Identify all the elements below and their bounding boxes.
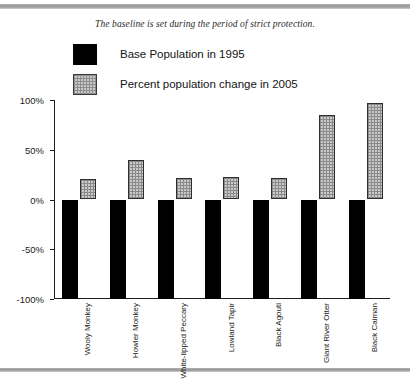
y-axis-tick-label: -50% <box>22 244 44 255</box>
top-divider-rule <box>0 4 410 9</box>
bar-group <box>103 100 151 299</box>
bar-percent-change <box>271 178 287 200</box>
bar-base-population <box>205 200 221 300</box>
bar-base-population <box>110 200 126 300</box>
bar-group <box>246 100 294 299</box>
bar-base-population <box>253 200 269 300</box>
y-axis-tick-label: -100% <box>17 294 44 305</box>
bar-percent-change <box>128 160 144 200</box>
bar-group <box>55 100 103 299</box>
chart-legend: Base Population in 1995 Percent populati… <box>73 41 298 101</box>
gray-hatched-square-swatch-icon <box>73 74 97 95</box>
y-axis-tick-label: 0% <box>30 194 44 205</box>
bar-percent-change <box>223 177 239 200</box>
figure-caption: The baseline is set during the period of… <box>0 19 410 29</box>
bar-base-population <box>158 200 174 300</box>
bar-group <box>294 100 342 299</box>
legend-item-label: Base Population in 1995 <box>120 48 245 60</box>
bar-percent-change <box>319 115 335 200</box>
x-axis-category-label: Howler Monkey <box>131 303 140 358</box>
bar-group <box>342 100 390 299</box>
legend-item-base-population: Base Population in 1995 <box>73 41 298 67</box>
legend-item-label: Percent population change in 2005 <box>120 78 298 90</box>
x-axis-category-label: Black Caiman <box>370 303 379 352</box>
y-axis-tick: 50% <box>50 150 54 151</box>
bar-base-population <box>349 200 365 300</box>
y-axis-tick-label: 100% <box>20 95 44 106</box>
bar-percent-change <box>367 103 383 200</box>
x-axis-category-label: Black Agouti <box>274 303 283 347</box>
bar-base-population <box>301 200 317 300</box>
legend-item-percent-change: Percent population change in 2005 <box>73 71 298 97</box>
y-axis-tick: -100% <box>50 299 54 300</box>
y-axis-tick: -50% <box>50 249 54 250</box>
bottom-divider-rule <box>0 368 410 372</box>
y-axis-tick: 0% <box>50 200 54 201</box>
bar-groups <box>55 100 390 299</box>
x-axis-category-label: Giant River Otter <box>322 303 331 363</box>
y-axis-tick: 100% <box>50 100 54 101</box>
x-axis-category-label: Wooly Monkey <box>83 303 92 355</box>
bar-base-population <box>62 200 78 300</box>
bar-chart-plot-area: 100%50%0%-50%-100% <box>54 100 390 299</box>
x-axis-category-label: Lowland Tapir <box>227 303 236 352</box>
x-axis-category-label: White-lipped Peccary <box>179 303 188 379</box>
black-square-swatch-icon <box>73 44 97 65</box>
y-axis-tick-label: 50% <box>25 144 44 155</box>
bar-percent-change <box>80 179 96 200</box>
bar-group <box>151 100 199 299</box>
bar-group <box>199 100 247 299</box>
bar-percent-change <box>176 178 192 200</box>
